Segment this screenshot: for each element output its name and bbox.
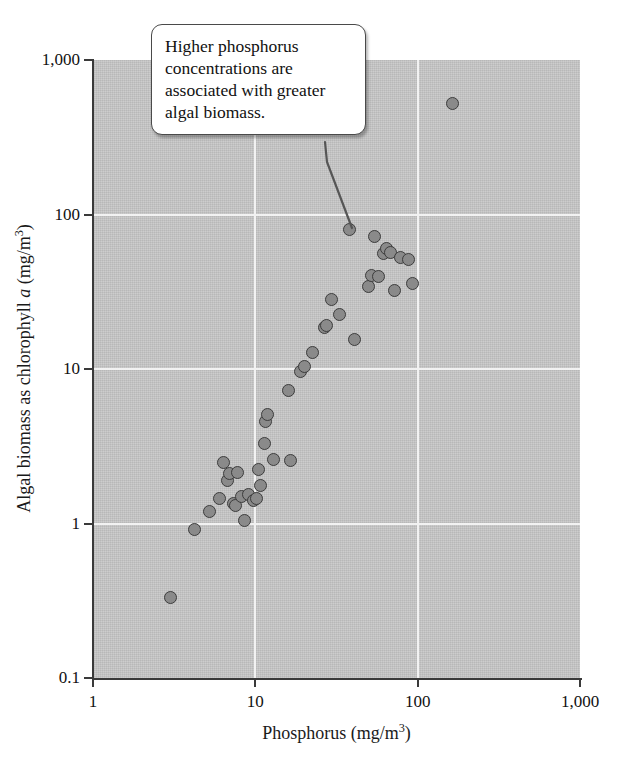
data-point: [250, 492, 263, 505]
data-point: [188, 523, 201, 536]
data-point: [406, 277, 419, 290]
y-tick-label-1000: 1,000: [42, 50, 80, 70]
x-axis-title-part1: Phosphorus (mg/m: [262, 723, 399, 743]
x-axis-title-part2: ): [405, 723, 411, 743]
x-tick-100: [417, 678, 419, 687]
data-point: [261, 408, 274, 421]
gridline-y-10: [93, 368, 580, 370]
data-point: [362, 280, 375, 293]
y-tick-10: [84, 368, 93, 370]
gridline-y-100: [93, 214, 580, 216]
x-axis-title: Phosphorus (mg/m3): [93, 723, 580, 744]
y-tick-1: [84, 523, 93, 525]
data-point: [282, 384, 295, 397]
data-point: [298, 360, 311, 373]
data-point: [325, 293, 338, 306]
y-tick-labels: 0.11101001,000: [0, 0, 80, 767]
callout-text: Higher phosphorus concentrations are ass…: [165, 36, 325, 122]
data-point: [446, 97, 459, 110]
data-point: [238, 514, 251, 527]
data-point: [306, 346, 319, 359]
data-point: [213, 492, 226, 505]
y-axis-title-part3: ): [14, 224, 34, 230]
data-point: [284, 454, 297, 467]
y-axis-title-part1: Algal biomass as chlorophyll: [14, 298, 34, 513]
y-axis-title-italic: a: [14, 289, 34, 298]
y-axis-title: Algal biomass as chlorophyll a (mg/m3): [14, 99, 35, 639]
data-point: [203, 505, 216, 518]
data-point: [402, 253, 415, 266]
x-tick-label-10: 10: [247, 692, 264, 712]
data-point: [164, 591, 177, 604]
x-tick-label-1000: 1,000: [561, 692, 599, 712]
data-point: [333, 308, 346, 321]
x-tick-10: [254, 678, 256, 687]
y-tick-label-0.1: 0.1: [59, 668, 80, 688]
data-point: [343, 223, 356, 236]
data-point: [231, 466, 244, 479]
x-tick-label-1: 1: [89, 692, 98, 712]
data-point: [267, 453, 280, 466]
data-point: [372, 270, 385, 283]
data-point: [254, 479, 267, 492]
callout-annotation: Higher phosphorus concentrations are ass…: [151, 24, 366, 135]
data-point: [320, 319, 333, 332]
x-axis-line: [92, 678, 582, 680]
data-point: [252, 463, 265, 476]
data-point: [388, 284, 401, 297]
x-tick-1: [92, 678, 94, 687]
y-tick-label-100: 100: [55, 205, 81, 225]
gridline-y-1: [93, 523, 580, 525]
plot-area: [93, 60, 580, 678]
data-point: [258, 437, 271, 450]
scatter-figure: 0.11101001,000 1101001,000 Algal biomass…: [0, 0, 618, 767]
y-tick-label-10: 10: [63, 359, 80, 379]
y-tick-label-1: 1: [72, 514, 81, 534]
y-axis-title-exponent: 3: [12, 230, 26, 236]
data-point: [348, 333, 361, 346]
y-tick-100: [84, 214, 93, 216]
y-tick-1000: [84, 59, 93, 61]
y-axis-title-part2: (mg/m: [14, 236, 34, 289]
x-tick-1000: [579, 678, 581, 687]
x-tick-label-100: 100: [405, 692, 431, 712]
data-point: [368, 230, 381, 243]
